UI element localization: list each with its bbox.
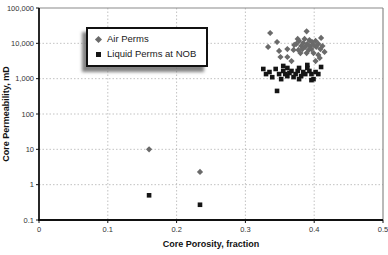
data-point-liquid-perms xyxy=(319,65,324,70)
x-axis-title: Core Porosity, fraction xyxy=(163,239,259,249)
data-point-liquid-perms xyxy=(297,77,302,82)
x-tick-label: 0.4 xyxy=(309,225,319,234)
x-tick-label: 0.2 xyxy=(171,225,181,234)
data-point-air-perms xyxy=(304,28,310,34)
legend-label: Air Perms xyxy=(107,33,149,45)
data-point-liquid-perms xyxy=(316,72,321,77)
data-point-liquid-perms xyxy=(273,67,278,72)
data-point-liquid-perms xyxy=(281,64,286,69)
data-point-liquid-perms xyxy=(285,66,290,71)
data-point-air-perms xyxy=(284,54,290,60)
legend: Air Perms Liquid Perms at NOB xyxy=(86,27,208,67)
chart: 00.10.20.30.40.50.11101001,00010,000100,… xyxy=(0,0,388,255)
data-point-air-perms xyxy=(318,35,324,41)
data-point-liquid-perms xyxy=(277,72,282,77)
data-point-liquid-perms xyxy=(147,193,152,198)
legend-entry-air-perms: Air Perms xyxy=(96,33,196,45)
data-point-liquid-perms xyxy=(307,69,312,74)
y-tick-label: 10 xyxy=(26,145,34,154)
x-tick-label: 0.1 xyxy=(103,225,113,234)
y-tick-label: 100 xyxy=(21,110,34,119)
data-point-air-perms xyxy=(288,58,294,64)
y-tick-label: 10,000 xyxy=(11,39,34,48)
data-point-air-perms xyxy=(274,39,280,45)
data-point-liquid-perms xyxy=(279,77,284,82)
data-point-liquid-perms xyxy=(309,78,314,83)
data-point-liquid-perms xyxy=(287,71,292,76)
x-tick-label: 0.5 xyxy=(378,225,388,234)
data-point-air-perms xyxy=(276,48,282,54)
data-point-liquid-perms xyxy=(261,67,266,72)
data-point-liquid-perms xyxy=(198,202,203,207)
data-point-liquid-perms xyxy=(303,72,308,77)
data-point-air-perms xyxy=(277,54,283,60)
y-tick-label: 1,000 xyxy=(15,74,34,83)
y-tick-label: 0.1 xyxy=(24,216,34,225)
data-point-air-perms xyxy=(197,169,203,175)
data-point-liquid-perms xyxy=(270,75,275,80)
legend-label: Liquid Perms at NOB xyxy=(107,48,196,60)
x-tick-label: 0 xyxy=(37,225,41,234)
data-point-liquid-perms xyxy=(291,75,296,80)
data-point-liquid-perms xyxy=(295,69,300,74)
data-point-air-perms xyxy=(284,46,290,52)
y-axis-title: Core Permeability, mD xyxy=(1,66,11,162)
data-point-air-perms xyxy=(265,44,271,50)
y-tick-label: 100,000 xyxy=(7,4,34,13)
y-tick-label: 1 xyxy=(30,180,34,189)
square-marker-icon xyxy=(96,52,101,57)
data-point-liquid-perms xyxy=(264,72,269,77)
legend-entry-liquid-perms: Liquid Perms at NOB xyxy=(96,48,196,60)
x-tick-label: 0.3 xyxy=(240,225,250,234)
data-point-liquid-perms xyxy=(305,63,310,68)
data-point-air-perms xyxy=(267,30,273,36)
data-point-liquid-perms xyxy=(275,89,280,94)
diamond-marker-icon xyxy=(95,35,102,42)
data-point-liquid-perms xyxy=(283,72,288,77)
data-point-air-perms xyxy=(146,146,152,152)
